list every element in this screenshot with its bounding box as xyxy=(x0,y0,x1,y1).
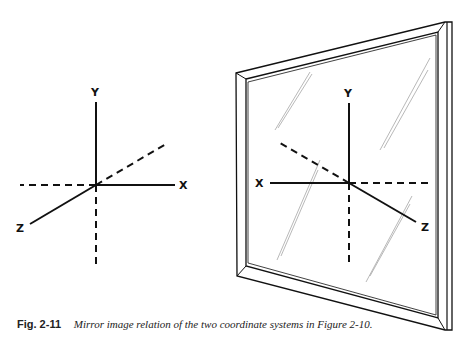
left-y-axis-label: Y xyxy=(91,87,99,98)
figure-caption: Fig. 2-11 Mirror image relation of the t… xyxy=(17,318,372,330)
mirror-x-axis-label: X xyxy=(255,178,263,189)
left-z-axis-label: Z xyxy=(16,223,24,234)
left-x-axis-label: X xyxy=(179,180,187,191)
caption-text: Mirror image relation of the two coordin… xyxy=(74,318,373,330)
mirror-coordinate-system xyxy=(270,103,428,262)
diagram-drawing xyxy=(0,0,475,352)
mirror-y-axis-label: Y xyxy=(344,88,352,99)
left-coordinate-system xyxy=(20,102,175,265)
figure-number: Fig. 2-11 xyxy=(17,318,61,330)
mirror-z-axis-label: Z xyxy=(421,222,429,233)
mirror-frame xyxy=(236,22,452,330)
glass-reflection-streaks xyxy=(275,58,430,282)
figure-page: Y X Z Y X Z Fig. 2-11 Mirror image relat… xyxy=(0,0,475,352)
